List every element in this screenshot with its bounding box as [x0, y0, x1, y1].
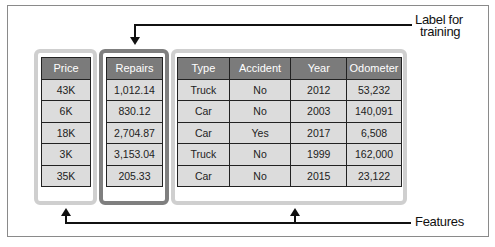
repairs-column-table: Repairs 1,012.14 830.12 2,704.87 3,153.0… — [106, 57, 163, 187]
cell-odometer-3: 6,508 — [347, 122, 402, 144]
cell-odometer-1: 53,232 — [347, 79, 402, 101]
column-header-year: Year — [291, 58, 347, 80]
column-header-type: Type — [178, 58, 230, 80]
cell-year-2: 2003 — [291, 101, 347, 123]
cell-accident-2: No — [229, 101, 291, 123]
cell-repairs-3: 2,704.87 — [107, 122, 163, 144]
cell-accident-5: No — [229, 165, 291, 187]
cell-repairs-4: 3,153.04 — [107, 144, 163, 166]
feature-group-others: Type Accident Year Odometer Truck No 201… — [171, 49, 407, 205]
label-group-repairs: Repairs 1,012.14 830.12 2,704.87 3,153.0… — [99, 49, 169, 205]
cell-accident-3: Yes — [229, 122, 291, 144]
label-for-training-callout: Label for training — [415, 14, 485, 38]
column-header-price: Price — [42, 58, 91, 80]
cell-odometer-5: 23,122 — [347, 165, 402, 187]
cell-price-1: 43K — [42, 79, 91, 101]
cell-year-4: 1999 — [291, 144, 347, 166]
cell-price-3: 18K — [42, 122, 91, 144]
cell-repairs-1: 1,012.14 — [107, 79, 163, 101]
cell-year-5: 2015 — [291, 165, 347, 187]
cell-type-3: Car — [178, 122, 230, 144]
cell-price-4: 3K — [42, 144, 91, 166]
cell-odometer-2: 140,091 — [347, 101, 402, 123]
arrow-down-icon — [130, 37, 140, 45]
cell-type-5: Car — [178, 165, 230, 187]
cell-repairs-2: 830.12 — [107, 101, 163, 123]
column-header-accident: Accident — [229, 58, 291, 80]
cell-year-3: 2017 — [291, 122, 347, 144]
cell-type-2: Car — [178, 101, 230, 123]
cell-price-2: 6K — [42, 101, 91, 123]
column-header-repairs: Repairs — [107, 58, 163, 80]
cell-odometer-4: 162,000 — [347, 144, 402, 166]
label-arrow-vertical — [134, 24, 136, 38]
features-arrow-horizontal — [65, 222, 411, 224]
features-callout: Features — [415, 216, 464, 228]
cell-type-1: Truck — [178, 79, 230, 101]
cell-accident-1: No — [229, 79, 291, 101]
features-table: Type Accident Year Odometer Truck No 201… — [177, 57, 402, 187]
cell-type-4: Truck — [178, 144, 230, 166]
label-arrow-horizontal — [134, 24, 412, 26]
cell-year-1: 2012 — [291, 79, 347, 101]
feature-group-price: Price 43K 6K 18K 3K 35K — [34, 49, 97, 205]
cell-repairs-5: 205.33 — [107, 165, 163, 187]
label-callout-line-2: training — [415, 26, 485, 38]
cell-price-5: 35K — [42, 165, 91, 187]
column-header-odometer: Odometer — [347, 58, 402, 80]
cell-accident-4: No — [229, 144, 291, 166]
price-column-table: Price 43K 6K 18K 3K 35K — [41, 57, 91, 187]
